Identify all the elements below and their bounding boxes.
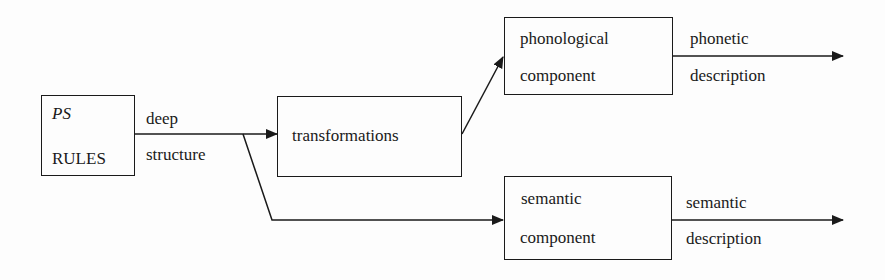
phonetic-description-label-line2: description <box>690 67 766 84</box>
ps-rules-label-line1: PS <box>52 105 71 122</box>
semantic-label-line1: semantic <box>521 190 581 207</box>
deep-structure-label-line2: structure <box>146 146 205 163</box>
arrow-transformations-to-phonological <box>462 57 503 134</box>
ps-rules-label-line2: RULES <box>52 150 106 167</box>
phonetic-description-label-line1: phonetic <box>690 30 749 47</box>
semantic-description-label-line1: semantic <box>686 194 746 211</box>
phonological-label-line1: phonological <box>520 30 609 47</box>
semantic-label-line2: component <box>520 229 596 246</box>
phonological-label-line2: component <box>520 67 596 84</box>
transformations-label: transformations <box>292 127 399 144</box>
semantic-description-label-line2: description <box>686 230 762 247</box>
deep-structure-label-line1: deep <box>146 110 178 127</box>
